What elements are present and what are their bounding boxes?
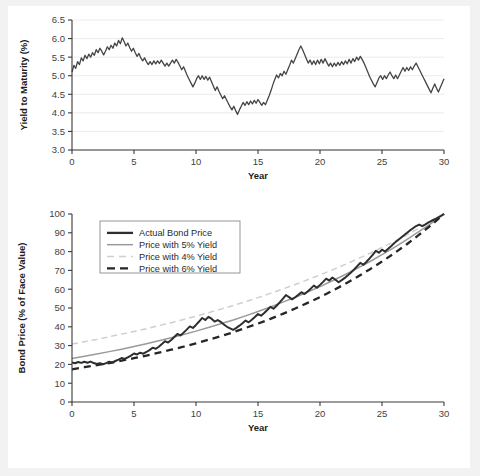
x-axis-title: Year bbox=[248, 170, 268, 181]
y-tick-label: 4.5 bbox=[52, 89, 65, 100]
y-tick-label: 60 bbox=[54, 284, 65, 295]
yield-chart-svg: 3.03.54.04.55.05.56.06.5051015202530Year… bbox=[8, 6, 470, 198]
x-tick-label: 30 bbox=[439, 156, 450, 167]
x-tick-label: 5 bbox=[131, 156, 136, 167]
y-axis-title: Yield to Maturity (%) bbox=[18, 40, 29, 131]
x-tick-label: 0 bbox=[69, 408, 74, 419]
chart-bond-price: 0102030405060708090100051015202530YearBo… bbox=[8, 196, 470, 468]
legend-label: Price with 4% Yield bbox=[139, 252, 217, 262]
y-tick-label: 90 bbox=[54, 227, 65, 238]
y-tick-label: 3.5 bbox=[52, 126, 65, 137]
y-tick-label: 6.5 bbox=[52, 14, 65, 25]
y-tick-label: 70 bbox=[54, 265, 65, 276]
y-tick-label: 80 bbox=[54, 246, 65, 257]
y-tick-label: 20 bbox=[54, 359, 65, 370]
x-tick-label: 10 bbox=[191, 156, 202, 167]
y-tick-label: 30 bbox=[54, 340, 65, 351]
y-tick-label: 40 bbox=[54, 321, 65, 332]
x-tick-label: 15 bbox=[253, 156, 264, 167]
figure-root: 3.03.54.04.55.05.56.06.5051015202530Year… bbox=[0, 0, 480, 476]
x-tick-label: 20 bbox=[315, 408, 326, 419]
x-tick-label: 10 bbox=[191, 408, 202, 419]
y-tick-label: 3.0 bbox=[52, 144, 65, 155]
bond-price-chart-svg: 0102030405060708090100051015202530YearBo… bbox=[8, 196, 470, 468]
x-tick-label: 25 bbox=[377, 156, 388, 167]
y-tick-label: 6.0 bbox=[52, 33, 65, 44]
y-tick-label: 5.0 bbox=[52, 70, 65, 81]
x-tick-label: 20 bbox=[315, 156, 326, 167]
figure-canvas: 3.03.54.04.55.05.56.06.5051015202530Year… bbox=[8, 6, 470, 468]
y-tick-label: 0 bbox=[60, 396, 65, 407]
y-tick-label: 5.5 bbox=[52, 52, 65, 63]
y-axis-title: Bond Price (% of Face Value) bbox=[16, 243, 27, 374]
x-tick-label: 30 bbox=[439, 408, 450, 419]
x-axis-title: Year bbox=[248, 422, 268, 433]
axis-lines bbox=[72, 20, 444, 150]
x-tick-label: 25 bbox=[377, 408, 388, 419]
y-tick-label: 50 bbox=[54, 302, 65, 313]
x-tick-label: 15 bbox=[253, 408, 264, 419]
x-tick-label: 5 bbox=[131, 408, 136, 419]
y-tick-label: 4.0 bbox=[52, 107, 65, 118]
legend-label: Price with 5% Yield bbox=[139, 240, 217, 250]
chart-yield-to-maturity: 3.03.54.04.55.05.56.06.5051015202530Year… bbox=[8, 6, 470, 198]
legend-label: Price with 6% Yield bbox=[139, 264, 217, 274]
x-tick-label: 0 bbox=[69, 156, 74, 167]
legend-label: Actual Bond Price bbox=[139, 228, 212, 238]
y-tick-label: 10 bbox=[54, 378, 65, 389]
y-tick-label: 100 bbox=[49, 208, 65, 219]
